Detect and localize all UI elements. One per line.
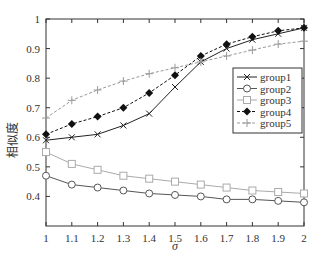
legend-label: group5 [260, 117, 292, 129]
x-tick-label: 1.4 [142, 232, 156, 244]
x-tick-label: 1.6 [194, 232, 208, 244]
x-tick-label: 1 [43, 232, 49, 244]
y-tick-label: 0.4 [26, 190, 40, 202]
x-tick-label: 1.9 [271, 232, 285, 244]
series-group2 [43, 172, 308, 206]
series-group3 [43, 149, 308, 197]
y-tick-label: 0.5 [26, 161, 40, 173]
y-tick-label: 0.7 [26, 102, 40, 114]
x-tick-label: 2 [301, 232, 307, 244]
y-tick-label: 0.9 [26, 43, 40, 55]
x-tick-label: 1.7 [220, 232, 234, 244]
x-tick-label: 1.8 [246, 232, 260, 244]
x-tick-label: 1.3 [117, 232, 131, 244]
legend-label: group3 [260, 94, 292, 106]
y-tick-label: 0.6 [26, 131, 40, 143]
legend-label: group1 [260, 71, 291, 83]
line-chart: 11.11.21.31.41.51.61.71.81.920.40.50.60.… [0, 0, 318, 269]
y-tick-label: 1 [35, 13, 41, 25]
x-tick-label: 1.2 [91, 232, 105, 244]
legend-label: group4 [260, 106, 292, 118]
legend-label: group2 [260, 83, 291, 95]
x-tick-label: 1.1 [65, 232, 79, 244]
y-axis-label: 相似度 [5, 122, 20, 158]
y-tick-label: 0.8 [26, 72, 40, 84]
legend: group1group2group3group4group5 [233, 68, 302, 133]
